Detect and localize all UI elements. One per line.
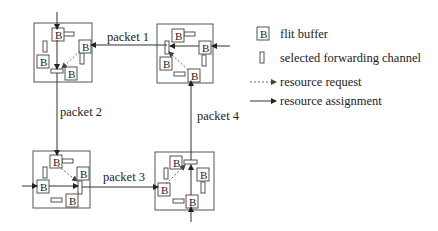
node-bottom-left: BBBB (33, 151, 90, 208)
node-bottom-right: BBBB (155, 152, 214, 210)
channel-icon (174, 72, 185, 76)
legend-item-resource-request: resource request (250, 75, 362, 89)
channel-icon (202, 55, 206, 66)
buffer-letter: B (163, 58, 170, 70)
buffer-letter: B (80, 168, 87, 180)
buffer-letter: B (55, 29, 62, 41)
legend-label-selected-channel: selected forwarding channel (280, 51, 421, 65)
selected-channel-icon (51, 69, 63, 73)
flit-buffer: B (79, 40, 91, 53)
flit-buffer-deadlock-diagram: BBBBBBBBBBBBBBBB packet 1 (0, 0, 438, 231)
flit-buffer: B (186, 195, 198, 208)
flit-buffer: B (50, 155, 62, 168)
selected-channel-icon (165, 41, 169, 54)
buffer-letter: B (189, 196, 196, 208)
node-top-left: BBBB (34, 23, 92, 82)
channel-icon (164, 168, 168, 179)
buffer-icon-letter: B (260, 28, 267, 40)
selected-channel-icon (78, 181, 82, 194)
buffer-letter: B (53, 156, 60, 168)
flit-buffer: B (160, 57, 172, 70)
flit-buffer: B (65, 67, 77, 80)
flit-buffer: B (197, 168, 209, 181)
buffer-letter: B (191, 70, 198, 82)
channel-icon (51, 198, 62, 202)
buffer-letter: B (40, 56, 47, 68)
node-top-right: BBBB (157, 24, 213, 83)
buffer-letter: B (82, 41, 89, 53)
buffer-letter: B (173, 157, 180, 169)
selected-channel-icon (184, 160, 197, 164)
legend-item-flit-buffer: B flit buffer (257, 27, 329, 41)
packet1-label: packet 1 (107, 30, 149, 44)
buffer-letter: B (68, 68, 75, 80)
legend: B flit buffer selected forwarding channe… (250, 27, 421, 108)
flit-buffer: B (77, 167, 89, 180)
packet3-label: packet 3 (103, 170, 145, 184)
flit-buffer: B (37, 180, 49, 193)
legend-label-resource-request: resource request (280, 75, 362, 89)
channel-icon (260, 52, 264, 63)
packet4-label: packet 4 (197, 109, 240, 123)
buffer-letter: B (175, 30, 182, 42)
flit-buffer: B (158, 183, 170, 196)
channel-icon (173, 199, 184, 203)
buffer-letter: B (69, 195, 76, 207)
channel-icon (201, 182, 205, 193)
legend-item-selected-channel: selected forwarding channel (260, 51, 421, 65)
legend-label-flit-buffer: flit buffer (280, 27, 329, 41)
buffer-letter: B (200, 169, 207, 181)
flit-buffer: B (37, 55, 49, 68)
packet2-label: packet 2 (60, 105, 102, 119)
legend-label-resource-assignment: resource assignment (280, 94, 382, 108)
flit-buffer: B (172, 29, 184, 42)
flit-buffer: B (199, 41, 211, 54)
flit-buffer: B (188, 69, 200, 82)
channel-icon (63, 32, 74, 36)
flit-buffer: B (170, 156, 182, 169)
channel-icon (184, 32, 195, 36)
channel-icon (43, 41, 47, 52)
buffer-letter: B (161, 184, 168, 196)
channel-icon (62, 159, 73, 163)
buffer-letter: B (40, 181, 47, 193)
flit-buffer: B (66, 194, 78, 207)
flit-buffer: B (52, 28, 64, 41)
channel-icon (80, 53, 84, 64)
channel-icon (43, 167, 47, 178)
buffer-letter: B (202, 42, 209, 54)
legend-item-resource-assignment: resource assignment (250, 94, 382, 108)
